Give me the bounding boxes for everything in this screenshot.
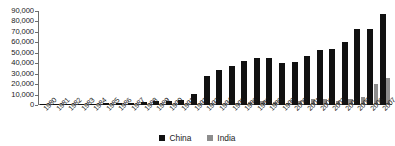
bar-chart: 90,00080,00070,00060,00050,00040,00030,0… [0,0,395,146]
legend-label: China [169,134,191,143]
bar-china [354,29,360,105]
bar-group [265,11,278,105]
bar-group [253,11,266,105]
bar-group [316,11,329,105]
chart-legend: ChinaIndia [0,131,395,145]
bar-group [114,11,127,105]
bar-group [228,11,241,105]
y-tick-mark [35,21,38,22]
bar-group [328,11,341,105]
y-tick-label: 40,000 [11,59,34,67]
y-tick-label: 50,000 [11,49,34,57]
plot-area [39,11,391,105]
bar-group [303,11,316,105]
bar-china [380,14,386,105]
bar-group [353,11,366,105]
bar-group [152,11,165,105]
y-tick-mark [35,11,38,12]
bar-group [378,11,391,105]
y-tick-mark [35,84,38,85]
bar-group [52,11,65,105]
x-axis: 1980198119821983198419851986198719881989… [39,105,391,131]
bar-group [202,11,215,105]
bar-group [240,11,253,105]
bar-group [366,11,379,105]
bar-group [215,11,228,105]
y-tick-label: 0 [30,101,34,109]
y-tick-label: 70,000 [11,28,34,36]
bar-group [341,11,354,105]
bar-group [127,11,140,105]
y-tick-mark [35,42,38,43]
y-tick-mark [35,32,38,33]
y-tick-label: 10,000 [11,91,34,99]
y-tick-label: 90,000 [11,7,34,15]
bar-group [89,11,102,105]
bar-china [367,29,373,105]
bar-group [177,11,190,105]
bar-group [165,11,178,105]
bar-china [342,42,348,105]
bar-group [140,11,153,105]
y-axis: 90,00080,00070,00060,00050,00040,00030,0… [0,6,36,106]
legend-swatch-icon [159,135,165,141]
y-tick-mark [35,63,38,64]
bar-group [290,11,303,105]
bar-group [278,11,291,105]
bar-group [102,11,115,105]
y-tick-label: 80,000 [11,17,34,25]
y-tick-label: 60,000 [11,38,34,46]
y-tick-mark [35,53,38,54]
legend-entry[interactable]: India [207,134,235,143]
legend-label: India [217,134,235,143]
y-tick-label: 20,000 [11,80,34,88]
bar-group [64,11,77,105]
y-tick-mark [35,95,38,96]
y-tick-mark [35,74,38,75]
bar-group [39,11,52,105]
legend-entry[interactable]: China [159,134,191,143]
y-tick-mark [35,105,38,106]
bar-group [77,11,90,105]
bar-group [190,11,203,105]
legend-swatch-icon [207,135,213,141]
y-tick-label: 30,000 [11,70,34,78]
